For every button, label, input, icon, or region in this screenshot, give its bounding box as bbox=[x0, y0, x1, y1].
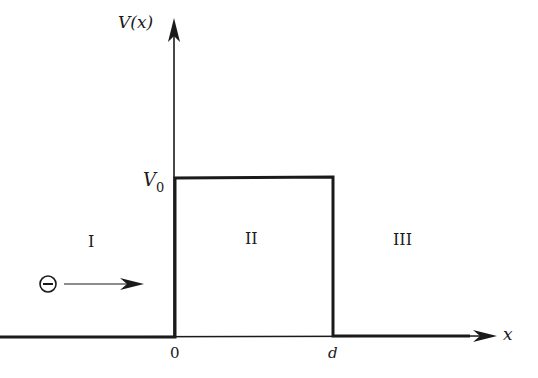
potential-curve bbox=[0, 177, 470, 337]
y-axis-label: V(x) bbox=[118, 12, 153, 32]
x-tick-d: d bbox=[328, 344, 338, 362]
region-I-label: I bbox=[88, 232, 94, 251]
barrier-height-subscript: 0 bbox=[156, 180, 164, 195]
x-axis-label: x bbox=[503, 324, 513, 344]
electron-particle bbox=[40, 276, 56, 292]
region-II-label: II bbox=[245, 229, 258, 248]
x-tick-0: 0 bbox=[170, 344, 180, 362]
region-III-label: III bbox=[393, 230, 412, 249]
potential-barrier-diagram: V(x) x V 0 0 d I II III bbox=[0, 0, 538, 378]
